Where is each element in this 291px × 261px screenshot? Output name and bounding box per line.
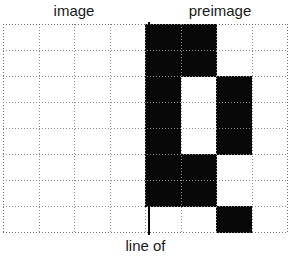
line-of-label: line of (0, 236, 291, 256)
gridlines (3, 24, 287, 233)
gridline-horizontal (3, 206, 287, 207)
gridline-horizontal (3, 128, 287, 129)
gridline-horizontal (3, 76, 287, 77)
grid (3, 24, 287, 233)
gridline-horizontal (3, 180, 287, 181)
image-label: image (0, 1, 148, 21)
gridline-horizontal (3, 102, 287, 103)
gridline-horizontal (3, 154, 287, 155)
top-label-row: image preimage (0, 0, 291, 24)
gridline-horizontal (3, 232, 287, 233)
figure-container: image preimage line of (0, 0, 291, 261)
gridline-horizontal (3, 24, 287, 25)
gridline-vertical (287, 24, 288, 233)
line-of-reflection (148, 22, 150, 235)
preimage-label: preimage (150, 1, 290, 21)
gridline-horizontal (3, 50, 287, 51)
